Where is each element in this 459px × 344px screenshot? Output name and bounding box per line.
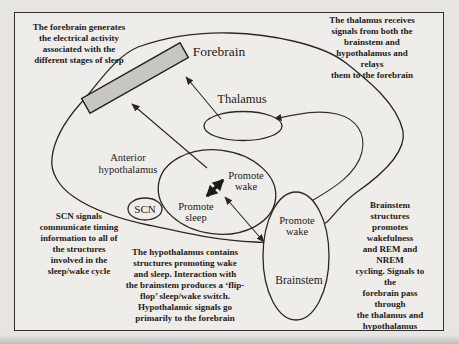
promote-sleep-label: Promote sleep (178, 201, 214, 223)
page-edge-shadow (0, 335, 459, 344)
anterior-hypothalamus-label: Anterior hypothalamus (99, 152, 158, 176)
hypothalamus-ellipse (153, 143, 280, 241)
scn-label: SCN (134, 204, 155, 215)
scn-annotation: SCN signals communicate timing informati… (40, 211, 119, 277)
thalamus-label: Thalamus (217, 93, 266, 106)
promote-wake-brainstem-label: Promote wake (279, 215, 315, 237)
forebrain-label: Forebrain (193, 45, 245, 59)
thalamus-ellipse (204, 112, 282, 141)
forebrain-annotation: The forebrain generates the electrical a… (33, 22, 125, 66)
arrow-brainstem-to-thalamus (274, 112, 363, 202)
brainstem-label: Brainstem (275, 275, 322, 286)
brainstem-ellipse (263, 192, 329, 320)
promote-wake-hypothalamus-label: Promote wake (228, 170, 264, 192)
arrow-thalamus-to-forebrain (186, 77, 221, 119)
thalamus-annotation: The thalamus receives signals from both … (329, 15, 416, 81)
hypothalamus-annotation: The hypothalamus contains structures pro… (126, 247, 244, 324)
scanned-textbook-figure: Forebrain Thalamus Anterior hypothalamus… (0, 0, 459, 344)
brainstem-annotation: Brainstem structures promotes wakefulnes… (356, 200, 425, 332)
